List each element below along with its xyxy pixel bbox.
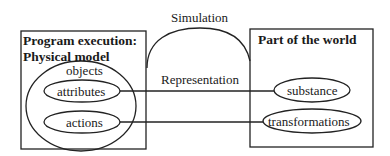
- diagram-canvas: Simulation Representation Program execut…: [0, 0, 390, 156]
- right-box-title: Part of the world: [258, 33, 357, 47]
- simulation-arch: [147, 28, 250, 68]
- substance-label: substance: [287, 84, 338, 97]
- simulation-label: Simulation: [171, 11, 228, 24]
- transformations-label: transformations: [268, 115, 350, 128]
- objects-label: objects: [66, 64, 103, 77]
- actions-label: actions: [66, 116, 103, 129]
- left-box-title-line2: Physical model: [23, 50, 110, 64]
- representation-label: Representation: [161, 73, 239, 86]
- attributes-label: attributes: [57, 85, 105, 98]
- left-box-title-line1: Program execution:: [23, 34, 137, 48]
